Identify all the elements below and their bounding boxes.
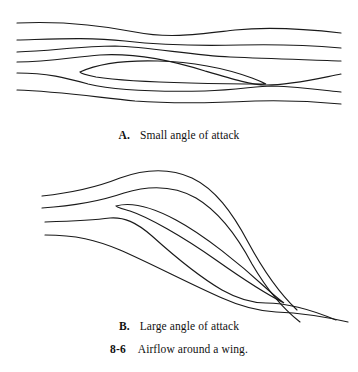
caption-panel-a-label: A. (119, 129, 130, 141)
figure-title: Airflow around a wing. (138, 343, 248, 355)
streamline-a-2 (17, 39, 341, 48)
streamline-a-6 (17, 90, 341, 104)
caption-panel-b: B. Large angle of attack (0, 320, 358, 332)
panel-a-diagram-small-angle-of-attack (0, 8, 358, 126)
figure-caption: 8-6 Airflow around a wing. (0, 343, 358, 355)
streamline-b-2 (42, 188, 300, 322)
panel-b-diagram-large-angle-of-attack (0, 160, 358, 325)
streamline-a-1 (17, 22, 341, 35)
caption-panel-a-text: Small angle of attack (140, 129, 240, 141)
figure-airflow-around-a-wing: A. Small angle of attack B. Large angle … (0, 0, 358, 372)
caption-panel-b-text: Large angle of attack (140, 320, 239, 332)
caption-panel-a: A. Small angle of attack (0, 129, 358, 141)
figure-number: 8-6 (110, 343, 126, 355)
caption-panel-b-label: B. (119, 320, 130, 332)
